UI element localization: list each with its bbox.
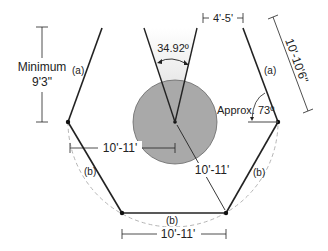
- radius-diagonal-label: 10'-11': [195, 163, 229, 177]
- wall-a-right-label: (a): [264, 65, 276, 76]
- top-opening-label: 4'-5': [213, 12, 233, 24]
- wall-b-bottom-label: (b): [166, 215, 178, 226]
- angle-side-label: Approx. 73º: [217, 104, 274, 116]
- vertex-bottom-right: [224, 211, 228, 215]
- wall-b-right-label: (b): [253, 167, 265, 178]
- bottom-width-label: 10'-11': [161, 227, 195, 241]
- wall-b-right: [226, 122, 278, 213]
- side-length-label: 10'-10'6": [282, 37, 311, 85]
- min-height-label-2: 9'3": [32, 75, 52, 89]
- vertex-bottom-left: [120, 211, 124, 215]
- radius-horizontal-label: 10'-11': [103, 141, 137, 155]
- min-height-label-1: Minimum: [18, 60, 67, 74]
- wedge-angle-label: 34.92º: [157, 42, 189, 54]
- hexagonal-room-diagram: Minimum 9'3" 4'-5' 34.92º 10'-10'6" Appr…: [0, 0, 328, 251]
- vertex-left: [66, 120, 70, 124]
- wall-b-left-label: (b): [84, 166, 96, 177]
- wall-a-left-label: (a): [72, 65, 84, 76]
